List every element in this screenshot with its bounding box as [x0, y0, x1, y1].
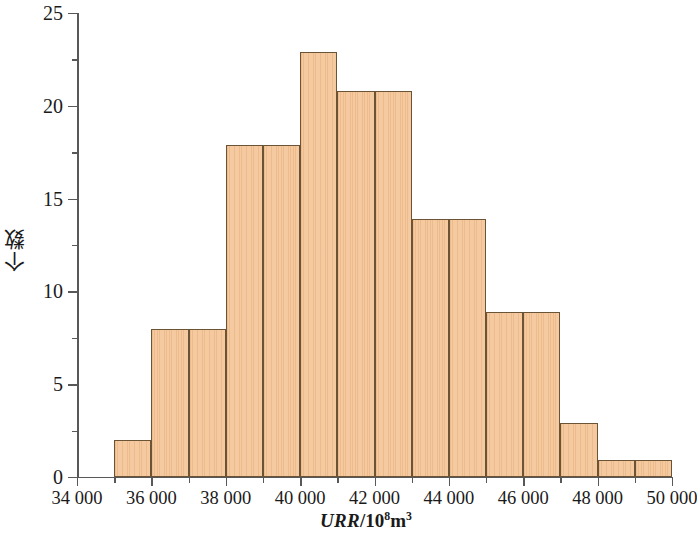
y-axis-major-tick: [68, 13, 77, 14]
histogram-bar: [300, 52, 337, 477]
x-axis-tick-label: 42 000: [349, 489, 400, 508]
x-axis-title-unit: m: [390, 510, 406, 531]
x-axis-tick-label: 46 000: [498, 489, 549, 508]
x-axis-major-tick: [672, 477, 673, 486]
histogram-bar: [449, 219, 486, 477]
y-axis-minor-tick: [72, 338, 78, 339]
histogram-bar: [189, 329, 226, 477]
x-axis-major-tick: [523, 477, 524, 486]
y-axis-minor-tick: [72, 245, 78, 246]
x-axis-major-tick: [449, 477, 450, 486]
x-axis-title-unit-exponent: 3: [406, 510, 412, 523]
histogram-bar: [114, 440, 151, 477]
x-axis-tick-label: 50 000: [647, 489, 697, 508]
histogram-bar: [263, 145, 300, 477]
y-axis-tick-label: 15: [43, 189, 63, 209]
x-axis-major-tick: [226, 477, 227, 486]
x-axis-title-variable: URR: [320, 510, 360, 531]
x-axis-minor-tick: [635, 477, 636, 483]
x-axis-major-tick: [375, 477, 376, 486]
x-axis-minor-tick: [114, 477, 115, 483]
x-axis-minor-tick: [486, 477, 487, 483]
histogram-bar: [375, 91, 412, 477]
x-axis-major-tick: [598, 477, 599, 486]
y-axis-major-tick: [68, 384, 77, 385]
y-axis-major-tick: [68, 477, 77, 478]
x-axis-minor-tick: [412, 477, 413, 483]
histogram-bar: [151, 329, 188, 477]
x-axis-major-tick: [151, 477, 152, 486]
plot-area: 0510152025 34 00036 00038 00040 00042 00…: [77, 13, 672, 477]
y-axis-tick-label: 20: [43, 96, 63, 116]
x-axis-minor-tick: [337, 477, 338, 483]
x-axis-tick-label: 44 000: [423, 489, 474, 508]
y-axis-tick-label: 10: [43, 281, 63, 301]
y-axis-minor-tick: [72, 152, 78, 153]
histogram-bar: [598, 460, 635, 477]
x-axis-major-tick: [77, 477, 78, 486]
x-axis-tick-label: 34 000: [52, 489, 103, 508]
x-axis-title: URR/108m3: [0, 511, 682, 530]
x-axis-tick-label: 48 000: [572, 489, 623, 508]
histogram-bar: [412, 219, 449, 477]
histogram-bar: [635, 460, 672, 477]
y-axis-minor-tick: [72, 59, 78, 60]
histogram-bar: [226, 145, 263, 477]
x-axis-minor-tick: [263, 477, 264, 483]
y-axis-tick-label: 5: [53, 374, 63, 394]
x-axis-tick-label: 38 000: [200, 489, 251, 508]
histogram-bar: [337, 91, 374, 477]
x-axis-minor-tick: [189, 477, 190, 483]
y-axis-tick-label: 25: [43, 3, 63, 23]
y-axis-title: 个数: [6, 228, 40, 272]
x-axis-tick-label: 36 000: [126, 489, 177, 508]
y-axis-major-tick: [68, 106, 77, 107]
x-axis-tick-label: 40 000: [275, 489, 326, 508]
y-axis-major-tick: [68, 199, 77, 200]
x-axis-minor-tick: [560, 477, 561, 483]
histogram-bar: [560, 423, 597, 477]
histogram-bar: [486, 312, 523, 477]
y-axis-minor-tick: [72, 431, 78, 432]
x-axis-major-tick: [300, 477, 301, 486]
y-axis-major-tick: [68, 291, 77, 292]
y-axis-tick-label: 0: [53, 467, 63, 487]
histogram-bar: [523, 312, 560, 477]
x-axis-title-separator: /10: [360, 510, 384, 531]
